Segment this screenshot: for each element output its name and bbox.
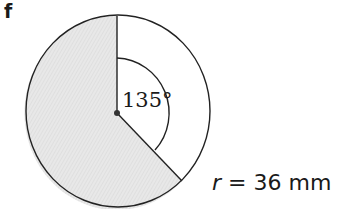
angle-label: 135° [122, 88, 173, 112]
radius-value: 36 mm [253, 170, 331, 195]
center-point [114, 110, 120, 116]
equals-sign: = [228, 170, 246, 195]
radius-label: r = 36 mm [212, 170, 331, 195]
radius-variable: r [212, 170, 221, 195]
